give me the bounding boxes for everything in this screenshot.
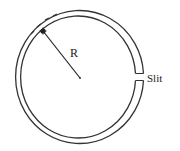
radius-label: R: [70, 46, 78, 60]
inner-ring: [21, 16, 136, 138]
center-point: [79, 77, 81, 79]
ring-diagram: R Slit: [0, 0, 180, 151]
slit-label: Slit: [147, 72, 162, 84]
